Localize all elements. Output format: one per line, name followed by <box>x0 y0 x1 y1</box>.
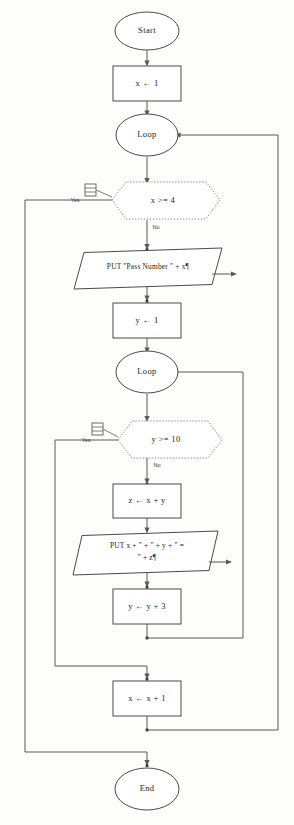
node-outer-condition[interactable]: x >= 4 <box>112 182 220 219</box>
connector-outerloop-to-outercond <box>144 157 149 184</box>
node-inner-condition-label: y >= 10 <box>151 434 180 444</box>
node-inner-condition[interactable]: y >= 10 <box>118 421 222 458</box>
connector-calcz-to-putsum <box>144 518 149 534</box>
outer-condition-yes-label: Yes <box>70 197 79 203</box>
inner-condition-note-icon <box>92 423 118 437</box>
node-init-y-label: y ← 1 <box>136 315 159 325</box>
inner-condition-no-label: No <box>153 462 160 468</box>
node-calc-z[interactable]: z ← x + y <box>113 484 181 518</box>
outer-condition-no-label: No <box>152 224 159 230</box>
connector-putpass-to-inity <box>144 286 149 303</box>
node-init-x-label: x ← 1 <box>136 78 159 88</box>
outer-condition-note-icon <box>85 184 112 197</box>
node-inc-x-label: x ← x + 1 <box>128 693 166 703</box>
node-end[interactable]: End <box>115 768 179 810</box>
node-put-sum-label-line1: PUT x + " + " + y + " = <box>110 541 184 550</box>
node-inner-loop[interactable]: Loop <box>116 351 178 393</box>
connector-innercond-no-to-calcz <box>144 458 149 486</box>
node-inner-loop-label: Loop <box>137 366 156 376</box>
connector-start-to-initx <box>144 50 149 67</box>
connector-innerloop-to-innercond <box>144 394 149 422</box>
flowchart-canvas: Start x ← 1 Loop x >= 4 Yes No P <box>0 0 294 825</box>
node-put-pass-number[interactable]: PUT "Pass Number " + x¶ <box>74 248 237 289</box>
connector-outercond-no-to-putpass <box>144 220 149 251</box>
node-put-sum[interactable]: PUT x + " + " + y + " = " + z¶ <box>73 531 232 575</box>
node-inc-y[interactable]: y ← y + 3 <box>113 589 181 624</box>
node-end-label: End <box>140 783 155 793</box>
node-outer-condition-label: x >= 4 <box>151 195 176 205</box>
node-inc-y-label: y ← y + 3 <box>128 601 166 611</box>
node-init-y[interactable]: y ← 1 <box>113 303 181 338</box>
node-outer-loop-label: Loop <box>137 129 156 139</box>
inner-condition-yes-label: Yes <box>81 437 90 443</box>
node-put-sum-label-line2: " + z¶ <box>138 553 157 562</box>
node-start-label: Start <box>138 25 156 35</box>
node-start[interactable]: Start <box>115 12 179 50</box>
node-init-x[interactable]: x ← 1 <box>113 66 181 101</box>
node-outer-loop[interactable]: Loop <box>116 114 178 156</box>
node-inc-x[interactable]: x ← x + 1 <box>113 681 181 716</box>
node-put-pass-number-label: PUT "Pass Number " + x¶ <box>107 262 190 271</box>
flowchart-diagram: Start x ← 1 Loop x >= 4 Yes No P <box>0 0 294 825</box>
node-calc-z-label: z ← x + y <box>128 495 166 505</box>
connector-putsum-to-incy <box>144 572 149 589</box>
